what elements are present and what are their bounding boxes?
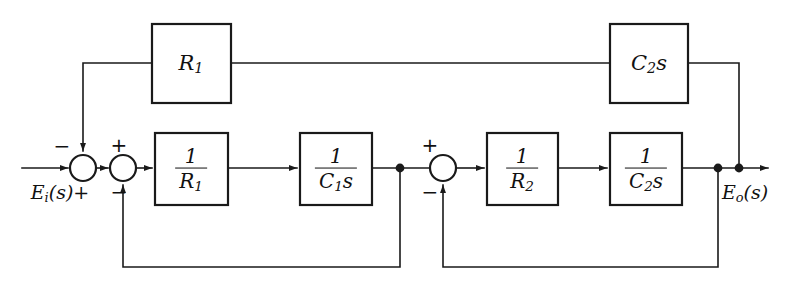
sign-sum1-minus: − — [54, 136, 71, 156]
wire-c2s-to-output-node — [688, 63, 739, 168]
block-label-inv-c1s: 1 C1s — [315, 146, 357, 193]
sign-sum3-minus: − — [422, 182, 439, 202]
block-label-inv-r2: 1 R2 — [506, 146, 538, 193]
summing-junction-2[interactable] — [110, 155, 136, 181]
block-label-r1-feedback: R1 — [179, 53, 204, 75]
node-after-1-over-c1s — [396, 164, 405, 173]
block-diagram-canvas: R1 C2s 1 R1 1 C1s 1 R2 1 C2s − + − + − E… — [0, 0, 798, 291]
block-label-c2s-feedback: C2s — [631, 53, 667, 75]
sign-sum2-minus: − — [111, 182, 128, 202]
node-output-c2s-return — [735, 164, 744, 173]
sign-sum3-plus: + — [422, 135, 439, 155]
node-output-feedback — [714, 164, 723, 173]
sign-sum2-plus: + — [111, 135, 128, 155]
input-signal-label: Ei(s)+ — [31, 183, 90, 205]
block-label-inv-c2s: 1 C2s — [625, 146, 667, 193]
block-label-inv-r1: 1 R1 — [175, 146, 207, 193]
summing-junction-1[interactable] — [70, 155, 96, 181]
output-signal-label: Eo(s) — [722, 183, 768, 205]
summing-junction-3[interactable] — [430, 155, 456, 181]
